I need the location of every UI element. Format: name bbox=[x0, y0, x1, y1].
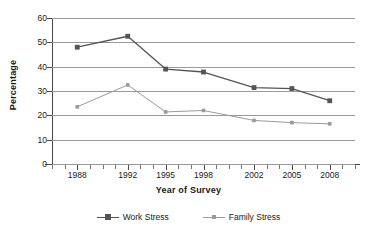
y-tick-label: 0 bbox=[21, 160, 47, 169]
x-tick-minor bbox=[65, 165, 66, 169]
data-point-marker bbox=[125, 34, 130, 39]
chart-legend: Work StressFamily Stress bbox=[0, 212, 377, 222]
y-axis-title: Percentage bbox=[8, 50, 18, 120]
x-tick-label: 2008 bbox=[310, 170, 350, 180]
y-tick-label: 50 bbox=[21, 38, 47, 47]
legend-swatch bbox=[97, 213, 119, 222]
legend-label: Work Stress bbox=[123, 212, 169, 222]
x-tick-minor bbox=[191, 165, 192, 169]
x-tick-minor bbox=[52, 165, 53, 169]
series-layer bbox=[52, 18, 355, 164]
legend-swatch bbox=[203, 213, 225, 222]
x-tick-minor bbox=[140, 165, 141, 169]
legend-label: Family Stress bbox=[229, 212, 280, 222]
data-point-marker bbox=[163, 67, 168, 72]
legend-marker bbox=[105, 214, 111, 220]
x-tick-minor bbox=[317, 165, 318, 169]
x-tick-minor bbox=[305, 165, 306, 169]
data-point-marker bbox=[252, 119, 256, 123]
y-tick-label: 40 bbox=[21, 63, 47, 72]
legend-entry[interactable]: Family Stress bbox=[203, 212, 280, 222]
data-point-marker bbox=[126, 83, 130, 87]
x-tick-minor bbox=[279, 165, 280, 169]
x-tick-minor bbox=[229, 165, 230, 169]
chart-figure: Percentage 0102030405060 198819921995199… bbox=[0, 0, 377, 239]
y-tick-label: 20 bbox=[21, 111, 47, 120]
data-point-marker bbox=[328, 122, 332, 126]
data-point-marker bbox=[202, 109, 206, 113]
x-tick-label: 1988 bbox=[57, 170, 97, 180]
x-tick-minor bbox=[178, 165, 179, 169]
x-tick-minor bbox=[216, 165, 217, 169]
y-tick-label: 30 bbox=[21, 87, 47, 96]
x-tick-minor bbox=[103, 165, 104, 169]
x-tick-minor bbox=[115, 165, 116, 169]
y-tick-label: 60 bbox=[21, 14, 47, 23]
x-tick-minor bbox=[355, 165, 356, 169]
data-point-marker bbox=[75, 105, 79, 109]
legend-marker bbox=[212, 215, 216, 219]
x-tick-label: 1998 bbox=[184, 170, 224, 180]
data-point-marker bbox=[289, 86, 294, 91]
x-tick-label: 1995 bbox=[146, 170, 186, 180]
x-tick-minor bbox=[267, 165, 268, 169]
x-tick-minor bbox=[90, 165, 91, 169]
plot-area bbox=[52, 18, 355, 164]
data-point-marker bbox=[327, 98, 332, 103]
data-point-marker bbox=[75, 45, 80, 50]
data-point-marker bbox=[252, 85, 257, 90]
x-tick-label: 2002 bbox=[234, 170, 274, 180]
x-tick-label: 2005 bbox=[272, 170, 312, 180]
legend-entry[interactable]: Work Stress bbox=[97, 212, 169, 222]
x-tick-minor bbox=[241, 165, 242, 169]
x-axis-title: Year of Survey bbox=[0, 185, 377, 195]
y-tick-label: 10 bbox=[21, 136, 47, 145]
data-point-marker bbox=[201, 70, 206, 75]
data-point-marker bbox=[164, 110, 168, 114]
x-tick-minor bbox=[342, 165, 343, 169]
series-line bbox=[77, 36, 330, 100]
x-tick-minor bbox=[153, 165, 154, 169]
x-tick-label: 1992 bbox=[108, 170, 148, 180]
data-point-marker bbox=[290, 121, 294, 125]
